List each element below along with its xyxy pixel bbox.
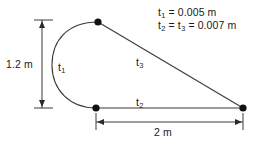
member-label-t2: t2	[136, 97, 144, 108]
horizontal-dim-arrow-left	[97, 119, 104, 125]
diagram-canvas: t1 = 0.005 m t2 = t3 = 0.007 m 1.2 m 2 m…	[0, 0, 259, 142]
vertical-dimension	[34, 20, 53, 108]
member-t1-subscript: 1	[61, 66, 66, 75]
note-t2-subscript: 2	[161, 24, 166, 33]
node-bottom-left	[92, 104, 99, 111]
member-label-t1: t1	[58, 62, 66, 73]
horizontal-dimension-label: 2 m	[154, 127, 172, 138]
vertical-dimension-label: 1.2 m	[6, 59, 33, 70]
note-t3-value: = 0.007 m	[185, 19, 236, 31]
horizontal-dim-arrow-right	[235, 119, 242, 125]
note-t3-subscript: 3	[181, 24, 186, 33]
thickness-note-t2-t3: t2 = t3 = 0.007 m	[158, 20, 236, 31]
note-equals-1: =	[166, 19, 178, 31]
vertical-dim-arrow-up	[39, 21, 45, 28]
note-t1-value: = 0.005 m	[166, 6, 217, 18]
node-top	[94, 18, 101, 25]
vertical-dim-arrow-down	[39, 100, 45, 107]
node-right	[239, 104, 246, 111]
thickness-note-t1: t1 = 0.005 m	[158, 7, 216, 18]
member-t3-line	[98, 22, 243, 108]
member-t2-subscript: 2	[139, 101, 144, 110]
member-t3-subscript: 3	[139, 61, 144, 70]
member-label-t3: t3	[136, 57, 144, 68]
